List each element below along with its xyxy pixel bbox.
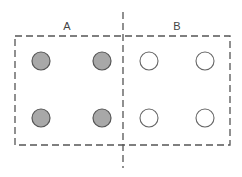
filled-circle	[93, 52, 111, 70]
label-b: B	[173, 20, 180, 32]
open-circle	[140, 52, 158, 70]
open-circle	[196, 52, 214, 70]
open-circle	[196, 109, 214, 127]
group-b	[140, 52, 214, 127]
open-circle	[140, 109, 158, 127]
filled-circle	[93, 109, 111, 127]
group-a	[32, 52, 111, 127]
filled-circle	[32, 52, 50, 70]
diagram-canvas: A B	[0, 0, 242, 177]
label-a: A	[63, 20, 71, 32]
filled-circle	[32, 109, 50, 127]
